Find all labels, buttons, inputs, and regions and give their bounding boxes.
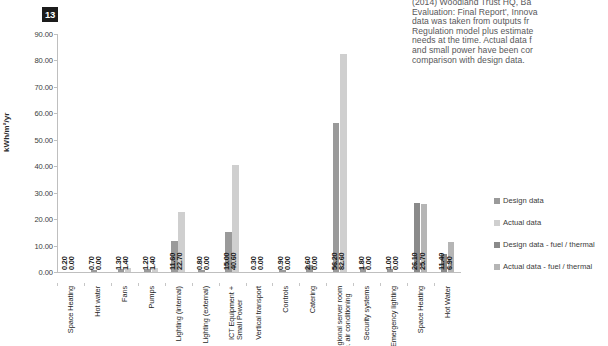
bar-group: 56.2082.60 bbox=[326, 34, 353, 272]
bar-group: 15.0040.60 bbox=[219, 34, 246, 272]
x-axis-category-label: Lighting (external) bbox=[202, 286, 210, 343]
plot-area: 0.0010.0020.0030.0040.0050.0060.0070.008… bbox=[57, 34, 461, 272]
bar-group: 1.000.00 bbox=[380, 34, 407, 272]
figure-page: (2014) Woodland Trust HQ, Ba Evaluation:… bbox=[0, 0, 608, 346]
bar-value-label: 0.00 bbox=[67, 256, 76, 270]
x-axis-category-label: Lighting (internal) bbox=[175, 286, 183, 341]
figure-number-badge: 13 bbox=[42, 7, 58, 22]
bar-group: 0.300.00 bbox=[246, 34, 273, 272]
x-axis-tick-mark bbox=[111, 283, 112, 286]
x-axis-tick-mark bbox=[380, 283, 381, 286]
bar-design-data[interactable] bbox=[91, 270, 98, 272]
x-axis-tick-mark bbox=[246, 283, 247, 286]
legend-item[interactable]: Actual data - fuel / thermal bbox=[494, 262, 608, 271]
bar-chart: kWh/m²/yr 0.0010.0020.0030.0040.0050.006… bbox=[0, 24, 470, 346]
bar-group: 1.301.40 bbox=[111, 34, 138, 272]
y-axis-tick-label: 70.00 bbox=[34, 82, 53, 91]
bar-design-data[interactable] bbox=[198, 270, 205, 272]
bar-group: 1.201.40 bbox=[138, 34, 165, 272]
legend-swatch-icon bbox=[494, 198, 500, 204]
bar-group: 1.800.00 bbox=[353, 34, 380, 272]
bar-value-label: 0.00 bbox=[283, 256, 292, 270]
x-axis-category-label: Hot Water bbox=[444, 286, 452, 318]
bar-value-label: 0.00 bbox=[256, 256, 265, 270]
x-axis-tick-mark bbox=[138, 283, 139, 286]
bar-value-label: 82.60 bbox=[337, 253, 346, 271]
bar-actual-data[interactable] bbox=[340, 54, 347, 272]
y-axis-tick-label: 90.00 bbox=[34, 30, 53, 39]
x-axis-category-label: Security systems bbox=[363, 286, 371, 340]
x-axis-tick-mark bbox=[272, 283, 273, 286]
x-axis-tick-mark bbox=[165, 283, 166, 286]
legend-label: Actual data - fuel / thermal bbox=[503, 262, 592, 271]
bar-group: 0.900.00 bbox=[272, 34, 299, 272]
bar-value-label: 0.00 bbox=[94, 256, 103, 270]
bar-group: 11.6022.70 bbox=[165, 34, 192, 272]
x-axis-tick-mark bbox=[57, 283, 58, 286]
bar-group: 0.800.00 bbox=[192, 34, 219, 272]
y-axis-tick-mark bbox=[54, 272, 57, 273]
y-axis-tick-label: 50.00 bbox=[34, 135, 53, 144]
x-axis-tick-mark bbox=[353, 283, 354, 286]
x-axis-category-label: Hot water bbox=[94, 286, 102, 317]
bar-value-label: 40.60 bbox=[229, 253, 238, 271]
y-axis-tick-label: 20.00 bbox=[34, 215, 53, 224]
x-axis-tick-mark bbox=[326, 283, 327, 286]
legend-item[interactable]: Design data bbox=[494, 196, 608, 205]
y-axis-tick-label: 0.00 bbox=[39, 268, 53, 277]
legend-label: Actual data bbox=[503, 218, 541, 227]
x-axis-tick-mark bbox=[434, 283, 435, 286]
x-axis-tick-mark bbox=[407, 283, 408, 286]
legend-swatch-icon bbox=[494, 264, 500, 270]
legend-swatch-icon bbox=[494, 242, 500, 248]
legend-item[interactable]: Actual data bbox=[494, 218, 608, 227]
bar-group: 26.1025.70 bbox=[407, 34, 434, 272]
x-axis-category-label: Space Heating bbox=[67, 286, 75, 333]
y-axis-tick-label: 40.00 bbox=[34, 162, 53, 171]
bar-value-label: 25.70 bbox=[418, 253, 427, 271]
bar-value-label: 22.70 bbox=[175, 253, 184, 271]
x-axis-category-label: Space Heating bbox=[417, 286, 425, 333]
x-axis-category-label: Regional server room inc. air conditioni… bbox=[336, 286, 352, 346]
x-axis-category-label: Controls bbox=[282, 286, 290, 313]
bar-value-label: 6.90 bbox=[445, 256, 454, 270]
bar-group: 0.700.00 bbox=[84, 34, 111, 272]
y-axis-tick-label: 80.00 bbox=[34, 56, 53, 65]
bar-group: 0.200.00 bbox=[57, 34, 84, 272]
y-axis-tick-label: 10.00 bbox=[34, 241, 53, 250]
x-axis-category-label: ICT Equipment + Small Power bbox=[228, 286, 244, 340]
bar-value-label: 0.00 bbox=[364, 256, 373, 270]
y-axis-tick-label: 30.00 bbox=[34, 188, 53, 197]
x-axis-tick-mark bbox=[192, 283, 193, 286]
legend-label: Design data bbox=[503, 196, 544, 205]
bar-design-data[interactable] bbox=[333, 123, 340, 272]
x-axis-tick-mark bbox=[84, 283, 85, 286]
x-axis-line bbox=[57, 272, 461, 273]
x-axis-category-label: Catering bbox=[309, 286, 317, 313]
x-axis-category-label: Emergency lighting bbox=[390, 286, 398, 346]
x-axis-category-label: Vertical transport bbox=[255, 286, 263, 340]
bar-group: 11.406.90 bbox=[434, 34, 461, 272]
x-axis-category-label: Fans bbox=[121, 286, 129, 302]
x-axis-tick-mark bbox=[219, 283, 220, 286]
legend-label: Design data - fuel / thermal bbox=[503, 240, 595, 249]
bar-group: 2.600.00 bbox=[299, 34, 326, 272]
x-axis-category-label: Pumps bbox=[148, 286, 156, 309]
bar-value-label: 0.00 bbox=[202, 256, 211, 270]
bar-value-label: 0.00 bbox=[310, 256, 319, 270]
bar-value-label: 0.00 bbox=[391, 256, 400, 270]
legend-item[interactable]: Design data - fuel / thermal bbox=[494, 240, 608, 249]
bar-value-label: 1.40 bbox=[148, 256, 157, 270]
y-axis-tick-label: 60.00 bbox=[34, 109, 53, 118]
x-axis-tick-mark bbox=[299, 283, 300, 286]
legend-swatch-icon bbox=[494, 220, 500, 226]
bar-value-label: 1.40 bbox=[121, 256, 130, 270]
chart-legend: Design dataActual dataDesign data - fuel… bbox=[494, 196, 608, 284]
y-axis-title: kWh/m²/yr bbox=[2, 112, 11, 152]
